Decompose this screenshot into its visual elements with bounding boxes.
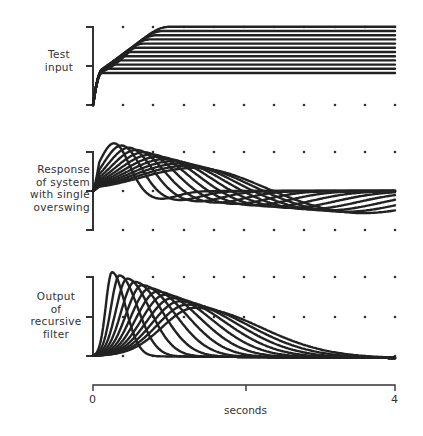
curve: [93, 285, 395, 358]
curve: [93, 60, 395, 105]
label-line: with single: [14, 188, 90, 201]
curve: [93, 73, 395, 105]
label-line: input: [30, 61, 88, 74]
panel2-label: Response of system with single overswing: [14, 163, 90, 213]
curves: [93, 27, 395, 358]
x-tick-start: 0: [89, 393, 96, 406]
label-line: of: [26, 303, 86, 316]
label-line: overswing: [14, 201, 90, 214]
x-axis: [93, 385, 395, 391]
label-line: recursive: [26, 315, 86, 328]
x-axis-label: seconds: [224, 404, 267, 416]
curve: [93, 65, 395, 105]
x-tick-end: 4: [391, 393, 398, 406]
label-line: of system: [14, 176, 90, 189]
label-line: Response: [14, 163, 90, 176]
label-line: Test: [30, 48, 88, 61]
panel3-label: Output of recursive filter: [26, 290, 86, 340]
panel1-label: Test input: [30, 48, 88, 73]
label-line: filter: [26, 328, 86, 341]
curve: [93, 69, 395, 105]
label-line: Output: [26, 290, 86, 303]
